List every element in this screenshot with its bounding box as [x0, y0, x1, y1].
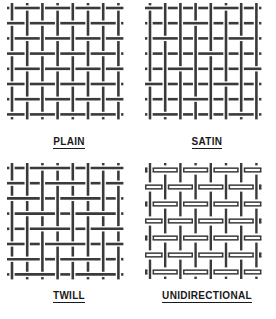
weave-diagram-unidirectional	[138, 160, 276, 294]
weave-cell-twill: TWILL	[0, 160, 138, 319]
weave-label-unidirectional: UNIDIRECTIONAL	[162, 290, 252, 303]
satin-weave-svg	[138, 0, 276, 134]
plain-weave-svg	[0, 0, 138, 134]
weave-cell-satin: SATIN	[138, 0, 276, 159]
weave-diagram-satin	[138, 0, 276, 134]
weave-styles-figure: PLAIN SATIN TWILL UNIDIRECTIONAL	[0, 0, 276, 319]
weave-label-twill: TWILL	[53, 290, 85, 303]
weave-caption-satin: SATIN	[138, 136, 276, 149]
weave-label-satin: SATIN	[192, 136, 223, 149]
weave-caption-plain: PLAIN	[0, 136, 138, 149]
weave-cell-unidirectional: UNIDIRECTIONAL	[138, 160, 276, 319]
weave-label-plain: PLAIN	[53, 136, 85, 149]
weave-diagram-plain	[0, 0, 138, 134]
weave-caption-twill: TWILL	[0, 290, 138, 303]
twill-weave-svg	[0, 160, 138, 294]
unidirectional-weave-svg	[138, 160, 276, 294]
weave-diagram-twill	[0, 160, 138, 294]
weave-caption-unidirectional: UNIDIRECTIONAL	[138, 290, 276, 303]
weave-cell-plain: PLAIN	[0, 0, 138, 159]
